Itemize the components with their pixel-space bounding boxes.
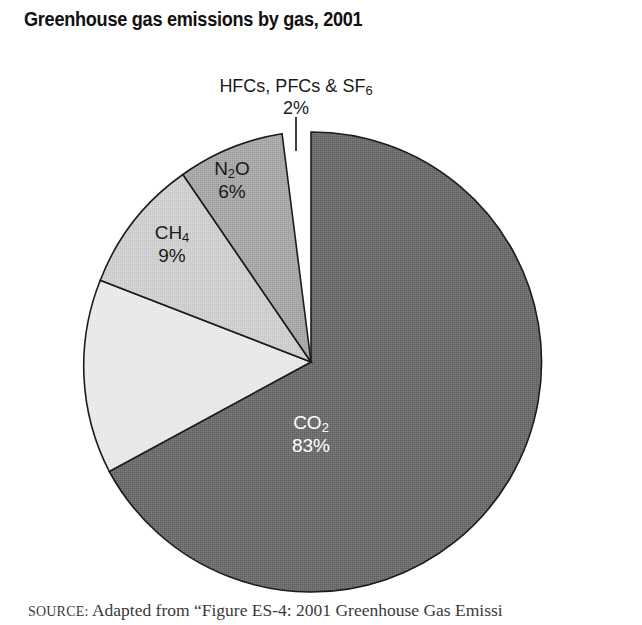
source-text: Adapted from “Figure ES-4: 2001 Greenhou… <box>89 600 503 620</box>
source-label: SOURCE: <box>28 604 89 619</box>
source-caption: SOURCE: Adapted from “Figure ES-4: 2001 … <box>28 600 642 621</box>
pie-chart-graphic <box>0 0 642 600</box>
pie-chart: CO2 83% CH4 9% N2O 6% HFCs, PFCs & SF6 2… <box>0 0 642 600</box>
